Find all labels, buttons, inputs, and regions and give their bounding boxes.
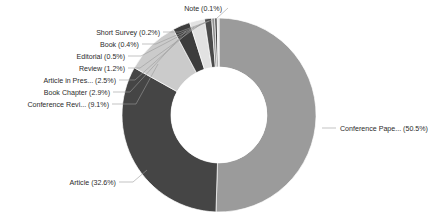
slice-label-book: Book (0.4%) [100, 41, 139, 49]
slice-label-review: Review (1.2%) [79, 65, 125, 73]
slice-label-note: Note (0.1%) [184, 5, 222, 13]
donut-hole [171, 67, 267, 163]
slice-label-short-survey: Short Survey (0.2%) [96, 29, 160, 37]
slice-label-editorial: Editorial (0.5%) [77, 53, 126, 61]
pie-slice-note[interactable] [218, 18, 219, 67]
slice-label-article-in-press: Article in Pres... (2.5%) [43, 77, 116, 85]
donut-chart: Conference Pape... (50.5%) Article (32.6… [0, 0, 445, 224]
slice-label-book-chapter: Book Chapter (2.9%) [44, 89, 110, 97]
donut-chart-canvas: Conference Pape... (50.5%) Article (32.6… [0, 0, 445, 224]
slice-label-article: Article (32.6%) [69, 179, 116, 187]
slice-label-conference-paper: Conference Pape... (50.5%) [340, 125, 428, 133]
slice-label-conference-review: Conference Revi... (9.1%) [27, 101, 109, 109]
